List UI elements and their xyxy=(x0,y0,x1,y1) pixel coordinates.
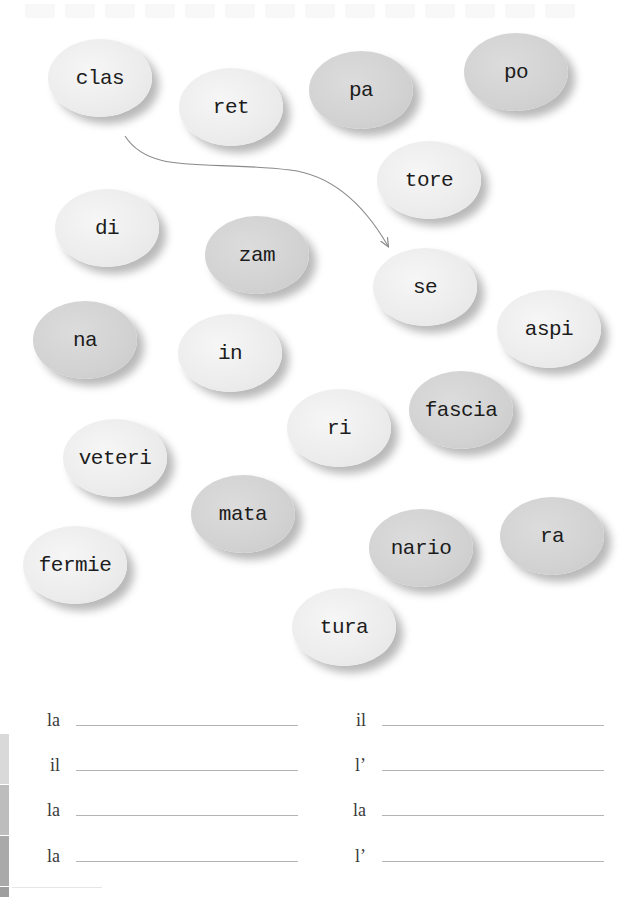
article-label: la xyxy=(326,800,382,820)
syllable-bubble-tore[interactable]: tore xyxy=(377,141,481,219)
syllable-text: aspi xyxy=(525,318,573,341)
syllable-bubble-in[interactable]: in xyxy=(178,314,282,392)
worksheet-page: clasretpapotoredizamsenainaspifasciarive… xyxy=(0,0,630,897)
article-label: la xyxy=(20,800,76,820)
syllable-bubble-aspi[interactable]: aspi xyxy=(497,290,601,368)
answer-blank[interactable] xyxy=(382,815,604,816)
syllable-text: nario xyxy=(391,537,452,560)
syllable-text: veteri xyxy=(79,447,152,470)
syllable-text: se xyxy=(413,276,437,299)
answer-row-right-3[interactable]: la xyxy=(326,790,604,820)
syllable-text: ri xyxy=(327,417,351,440)
syllable-bubble-po[interactable]: po xyxy=(464,33,568,111)
answer-blank[interactable] xyxy=(382,770,604,771)
margin-tab-3 xyxy=(0,836,9,886)
syllable-bubble-veteri[interactable]: veteri xyxy=(63,419,167,497)
syllable-text: zam xyxy=(239,244,275,267)
margin-tab-4 xyxy=(0,887,9,897)
syllable-text: ret xyxy=(213,96,249,119)
answer-row-left-1[interactable]: la xyxy=(20,700,298,730)
syllable-bubble-se[interactable]: se xyxy=(373,248,477,326)
footer-divider xyxy=(12,887,102,888)
margin-tab-2 xyxy=(0,785,9,835)
answer-row-left-4[interactable]: la xyxy=(20,836,298,866)
article-label: l’ xyxy=(326,846,382,866)
syllable-bubble-clas[interactable]: clas xyxy=(48,39,152,117)
syllable-text: clas xyxy=(76,67,124,90)
syllable-bubble-ret[interactable]: ret xyxy=(179,68,283,146)
answer-blank[interactable] xyxy=(76,815,298,816)
answer-blank[interactable] xyxy=(76,861,298,862)
syllable-text: fermie xyxy=(39,554,112,577)
article-label: il xyxy=(20,755,76,775)
syllable-text: ra xyxy=(540,525,564,548)
margin-tab-1 xyxy=(0,734,9,784)
article-label: il xyxy=(326,710,382,730)
article-label: la xyxy=(20,710,76,730)
syllable-bubble-tura[interactable]: tura xyxy=(292,588,396,666)
answer-row-right-4[interactable]: l’ xyxy=(326,836,604,866)
syllable-text: tura xyxy=(320,616,368,639)
syllable-bubble-mata[interactable]: mata xyxy=(191,475,295,553)
answer-row-left-2[interactable]: il xyxy=(20,745,298,775)
syllable-bubble-ri[interactable]: ri xyxy=(287,389,391,467)
syllable-text: di xyxy=(95,217,119,240)
syllable-bubble-ra[interactable]: ra xyxy=(500,497,604,575)
answer-blank[interactable] xyxy=(76,770,298,771)
syllable-text: fascia xyxy=(425,399,498,422)
syllable-bubble-na[interactable]: na xyxy=(33,301,137,379)
syllable-bubble-fascia[interactable]: fascia xyxy=(409,371,513,449)
syllable-text: in xyxy=(218,342,242,365)
syllable-bubble-nario[interactable]: nario xyxy=(369,509,473,587)
syllable-bubble-fermie[interactable]: fermie xyxy=(23,526,127,604)
syllable-bubble-pa[interactable]: pa xyxy=(309,51,413,129)
answer-blank[interactable] xyxy=(382,861,604,862)
answer-row-right-2[interactable]: l’ xyxy=(326,745,604,775)
syllable-text: mata xyxy=(219,503,267,526)
answer-blank[interactable] xyxy=(382,725,604,726)
article-label: la xyxy=(20,846,76,866)
answer-blank[interactable] xyxy=(76,725,298,726)
syllable-text: na xyxy=(73,329,97,352)
faint-header-bleedthrough xyxy=(25,4,585,18)
syllable-bubble-di[interactable]: di xyxy=(55,189,159,267)
syllable-bubble-zam[interactable]: zam xyxy=(205,216,309,294)
syllable-text: tore xyxy=(405,169,453,192)
syllable-text: po xyxy=(504,61,528,84)
article-label: l’ xyxy=(326,755,382,775)
answer-row-right-1[interactable]: il xyxy=(326,700,604,730)
answer-row-left-3[interactable]: la xyxy=(20,790,298,820)
syllable-text: pa xyxy=(349,79,373,102)
